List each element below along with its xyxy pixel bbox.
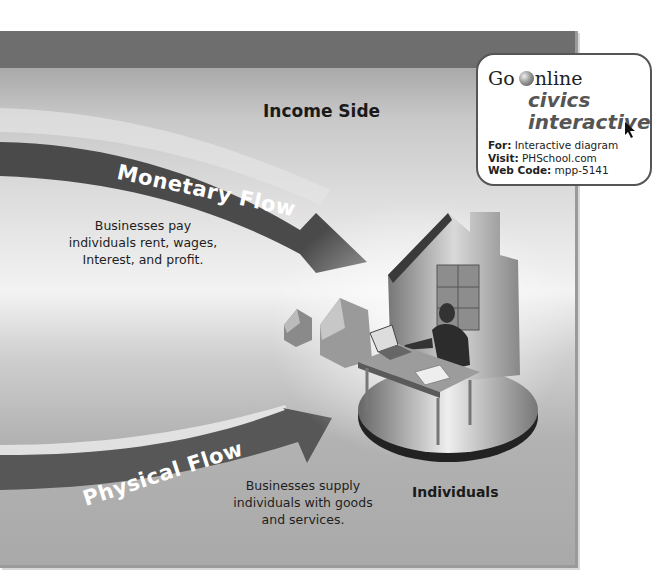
caption-line: Businesses pay — [58, 217, 228, 234]
for-label: For: — [488, 139, 511, 151]
for-value: Interactive diagram — [515, 139, 619, 151]
web-code-value: mpp-5141 — [555, 164, 609, 176]
physical-flow-description: Businesses supply individuals with goods… — [228, 477, 378, 528]
globe-icon — [519, 71, 534, 86]
caption-line: Businesses supply — [228, 477, 378, 494]
visit-link[interactable]: PHSchool.com — [522, 152, 597, 164]
caption-line: Interest, and profit. — [58, 251, 228, 268]
go-online-heading: Gonline — [488, 67, 583, 89]
go-online-box[interactable]: Gonline civics interactive For: Interact… — [476, 53, 652, 186]
cursor-icon — [624, 121, 638, 139]
monetary-flow-description: Businesses pay individuals rent, wages, … — [58, 217, 228, 268]
section-title: Income Side — [263, 101, 380, 121]
online-text: nline — [535, 67, 583, 89]
brand-line-1: civics — [528, 89, 650, 111]
web-code-label: Web Code: — [488, 164, 551, 176]
caption-line: individuals rent, wages, — [58, 234, 228, 251]
visit-label: Visit: — [488, 152, 519, 164]
go-text: Go — [488, 67, 515, 89]
go-online-info: For: Interactive diagram Visit: PHSchool… — [488, 139, 618, 177]
caption-line: and services. — [228, 511, 378, 528]
caption-line: individuals with goods — [228, 494, 378, 511]
individuals-label: Individuals — [412, 484, 499, 500]
